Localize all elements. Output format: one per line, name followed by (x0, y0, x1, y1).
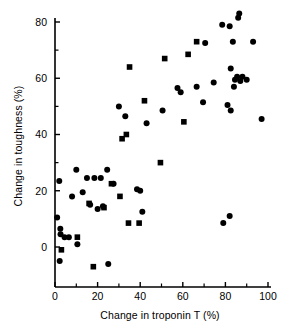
data-point-square (162, 56, 168, 62)
data-point-circle (194, 84, 200, 90)
data-point-circle (54, 214, 60, 220)
data-point-circle (228, 108, 234, 114)
data-point-circle (66, 234, 72, 240)
data-point-circle (57, 226, 63, 232)
data-point-circle (231, 84, 237, 90)
data-point-circle (56, 178, 62, 184)
data-point-circle (144, 120, 150, 126)
scatter-chart-figure: Change in toughness (%) Change in tropon… (0, 0, 285, 333)
data-point-circle (219, 22, 225, 28)
data-point-circle (74, 241, 80, 247)
data-point-circle (202, 40, 208, 46)
data-point-circle (73, 167, 79, 173)
y-tick-label: 60 (35, 72, 47, 84)
data-point-circle (211, 79, 217, 85)
data-point-square (142, 98, 148, 104)
data-point-square (185, 52, 191, 58)
data-point-circle (228, 65, 234, 71)
data-point-square (101, 205, 107, 211)
data-point-square (136, 220, 142, 226)
data-point-square (59, 247, 65, 253)
data-point-square (158, 160, 164, 166)
data-point-circle (105, 261, 111, 267)
plot-area: 020406080020406080100 (0, 0, 285, 333)
y-tick-label: 0 (41, 241, 47, 253)
data-point-square (124, 132, 130, 138)
data-point-circle (160, 108, 166, 114)
data-point-square (181, 119, 187, 125)
x-tick-label: 0 (52, 290, 58, 302)
data-point-circle (137, 188, 143, 194)
data-point-circle (236, 11, 242, 17)
data-point-circle (227, 23, 233, 29)
data-point-circle (178, 89, 184, 95)
x-tick-label: 20 (92, 290, 104, 302)
data-point-square (75, 234, 81, 240)
x-tick-label: 40 (134, 290, 146, 302)
data-point-circle (250, 39, 256, 45)
data-point-circle (95, 206, 101, 212)
data-point-circle (57, 258, 63, 264)
data-point-circle (220, 220, 226, 226)
x-tick-label: 100 (259, 290, 277, 302)
data-point-square (117, 194, 123, 200)
data-point-circle (69, 193, 75, 199)
data-point-circle (80, 189, 86, 195)
data-point-circle (200, 99, 206, 105)
x-tick-label: 80 (220, 290, 232, 302)
data-point-circle (225, 102, 231, 108)
data-point-square (91, 264, 97, 270)
data-point-square (194, 39, 200, 45)
data-point-square (109, 181, 115, 187)
data-point-circle (84, 175, 90, 181)
data-point-circle (259, 116, 265, 122)
data-point-circle (116, 103, 122, 109)
data-point-square (126, 220, 132, 226)
data-point-circle (104, 167, 110, 173)
y-tick-label: 20 (35, 185, 47, 197)
data-point-circle (230, 39, 236, 45)
x-tick-label: 60 (177, 290, 189, 302)
data-point-circle (227, 213, 233, 219)
data-point-square (86, 201, 92, 207)
data-point-circle (122, 113, 128, 119)
y-tick-label: 80 (35, 16, 47, 28)
data-point-circle (91, 175, 97, 181)
data-point-square (127, 64, 133, 70)
data-point-circle (244, 77, 250, 83)
data-point-circle (98, 175, 104, 181)
data-point-circle (139, 209, 145, 215)
y-tick-label: 40 (35, 128, 47, 140)
